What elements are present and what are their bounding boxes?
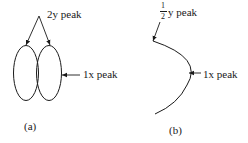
label-2y-peak: 2y peak	[47, 9, 82, 20]
label-1x-peak-a: 1x peak	[83, 69, 118, 80]
label-1x-peak-b: 1x peak	[203, 69, 238, 80]
left-ellipse	[14, 46, 39, 101]
arrow-to-right-peak	[39, 16, 50, 45]
panel-b	[153, 22, 201, 114]
panel-a	[14, 16, 81, 101]
label-y-peak: y peak	[168, 7, 197, 18]
fraction-denominator: 2	[159, 13, 167, 21]
curve	[153, 41, 191, 114]
arrow-to-left-peak	[26, 16, 39, 45]
arrow-to-top-end	[153, 22, 160, 41]
fraction-numerator: 1	[159, 2, 167, 10]
caption-b: (b)	[169, 125, 182, 136]
caption-a: (a)	[24, 121, 36, 132]
right-ellipse	[37, 46, 62, 101]
